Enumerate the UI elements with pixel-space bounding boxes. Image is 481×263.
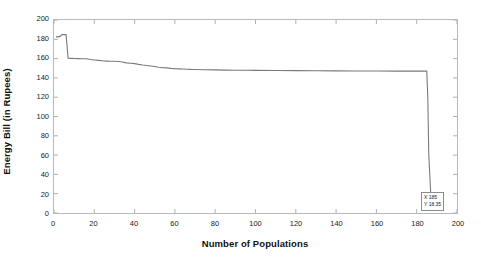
y-tick-label-200: 200 xyxy=(36,15,49,23)
data-tip-y-value: Y 18.35 xyxy=(424,201,441,208)
x-tick-label-120: 120 xyxy=(290,220,303,228)
y-tick-label-80: 80 xyxy=(41,132,49,140)
x-tick-label-40: 40 xyxy=(130,220,138,228)
x-tick-label-60: 60 xyxy=(170,220,178,228)
y-tick-label-20: 20 xyxy=(41,191,49,199)
x-tick-label-200: 200 xyxy=(452,220,465,228)
x-tick-label-20: 20 xyxy=(89,220,97,228)
y-tick-label-180: 180 xyxy=(36,35,49,43)
figure-canvas: 200 180 160 140 120 100 80 60 40 20 0 0 … xyxy=(0,0,481,263)
x-tick-label-0: 0 xyxy=(51,220,55,228)
data-tip-annotation[interactable]: X 185 Y 18.35 xyxy=(421,192,444,211)
x-tick-label-100: 100 xyxy=(249,220,262,228)
y-tick-label-100: 100 xyxy=(36,113,49,121)
energy-bill-line-chart xyxy=(54,20,457,213)
y-tick-label-120: 120 xyxy=(36,93,49,101)
plot-area xyxy=(53,19,458,214)
tick-marks xyxy=(54,20,457,213)
data-series-line xyxy=(56,35,431,196)
x-axis-title: Number of Populations xyxy=(202,238,309,249)
x-tick-label-80: 80 xyxy=(211,220,219,228)
y-tick-label-160: 160 xyxy=(36,54,49,62)
x-tick-label-140: 140 xyxy=(330,220,343,228)
y-tick-label-0: 0 xyxy=(45,210,49,218)
data-tip-x-value: X 185 xyxy=(424,194,441,201)
x-tick-label-160: 160 xyxy=(371,220,384,228)
y-tick-label-40: 40 xyxy=(41,171,49,179)
y-tick-label-140: 140 xyxy=(36,74,49,82)
x-tick-label-180: 180 xyxy=(411,220,424,228)
y-axis-title: Energy Bill (in Rupees) xyxy=(1,68,12,174)
y-tick-label-60: 60 xyxy=(41,152,49,160)
